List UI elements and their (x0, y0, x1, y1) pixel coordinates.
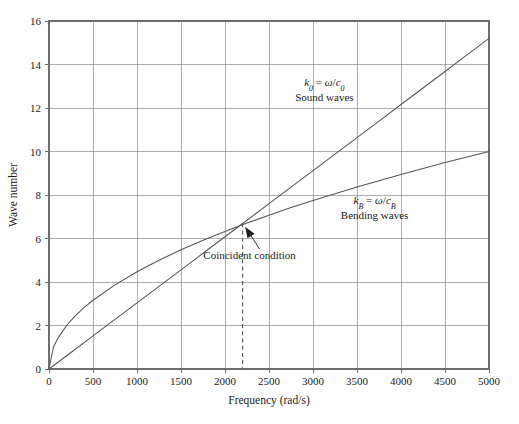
x-tick-label-2000: 2000 (214, 375, 237, 387)
x-axis-title: Frequency (rad/s) (228, 394, 310, 407)
coincident-condition-label: Coincident condition (203, 249, 296, 261)
x-tick-label-2500: 2500 (258, 375, 281, 387)
x-tick-label-4000: 4000 (390, 375, 413, 387)
x-tick-label-500: 500 (85, 375, 102, 387)
x-tick-label-4500: 4500 (434, 375, 457, 387)
chart-svg: 0500100015002000250030003500400045005000… (0, 0, 519, 424)
y-tick-label-8: 8 (36, 189, 42, 201)
y-tick-label-0: 0 (36, 363, 42, 375)
y-tick-label-10: 10 (30, 146, 42, 158)
wave-number-frequency-chart: 0500100015002000250030003500400045005000… (0, 0, 519, 424)
y-axis-title: Wave number (7, 163, 19, 227)
y-tick-label-6: 6 (36, 233, 42, 245)
sound-waves-name: Sound waves (295, 91, 353, 103)
y-tick-label-16: 16 (30, 15, 42, 27)
chart-background (0, 0, 519, 424)
x-tick-label-3500: 3500 (346, 375, 369, 387)
y-tick-label-4: 4 (36, 276, 42, 288)
y-tick-label-12: 12 (30, 102, 41, 114)
x-tick-label-5000: 5000 (478, 375, 501, 387)
y-tick-label-2: 2 (36, 320, 42, 332)
x-tick-label-1500: 1500 (170, 375, 193, 387)
x-tick-label-0: 0 (46, 375, 52, 387)
bending-waves-name: Bending waves (341, 209, 409, 221)
y-tick-label-14: 14 (30, 59, 42, 71)
x-tick-label-3000: 3000 (302, 375, 325, 387)
x-tick-label-1000: 1000 (126, 375, 149, 387)
